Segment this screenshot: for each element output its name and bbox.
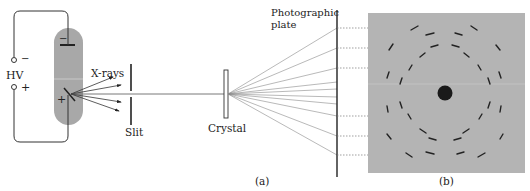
hv-terminal-positive [12,85,17,90]
laue-diffraction-diagram: − HV + − + X-rays Slit Crystal [0,0,530,191]
cathode-sign: − [59,33,67,44]
hv-terminal-negative [12,58,17,63]
crystal-label: Crystal [208,122,247,134]
crystal [224,70,228,118]
hv-minus-label: − [21,53,29,64]
hv-plus-label: + [21,81,30,94]
xrays-label: X-rays [91,67,124,79]
panel-b-label: (b) [439,175,454,187]
plate-label-line2: plate [271,19,297,30]
slit-label: Slit [125,126,144,138]
central-spot [438,86,453,101]
diffracted-rays [228,28,337,155]
plate-label-line1: Photographic [271,7,339,18]
anode-sign: + [57,93,66,106]
panel-a-label: (a) [255,175,269,187]
